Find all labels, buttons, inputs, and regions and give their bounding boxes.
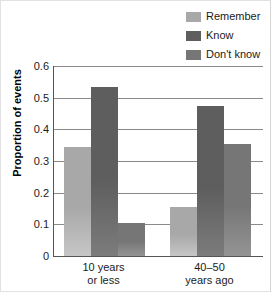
y-axis-tick-label: 0.1 [34,218,49,230]
bar [118,223,145,256]
bar-series-container [54,66,263,256]
legend-item-know: Know [186,28,270,43]
legend-swatch-remember [186,12,201,22]
y-axis-tick-label: 0 [43,250,49,262]
chart-legend: Remember Know Don't know [186,9,270,66]
bar-chart-figure: Remember Know Don't know Proportion of e… [0,0,272,293]
y-axis-tick-label: 0.6 [34,60,49,72]
legend-swatch-know [186,31,201,41]
legend-label-know: Know [206,30,234,41]
bar [197,106,224,256]
legend-item-remember: Remember [186,9,270,24]
legend-swatch-dont-know [186,50,201,60]
y-axis-tick-label: 0.5 [34,92,49,104]
legend-item-dont-know: Don't know [186,47,270,62]
y-axis-title: Proportion of events [11,53,23,193]
x-axis-tick-label-line: 40–50 [185,261,233,274]
x-axis-tick-labels: 10 yearsor less40–50years ago [53,261,262,291]
x-axis-tick-label-line: years ago [185,274,233,287]
bar [64,147,91,256]
legend-label-dont-know: Don't know [206,49,260,60]
plot-area: 00.10.20.30.40.50.6 [53,66,263,257]
bar [170,207,197,256]
y-axis-tick-label: 0.3 [34,155,49,167]
y-axis-tick-label: 0.4 [34,123,49,135]
x-axis-tick-label-line: or less [82,274,124,287]
x-axis-tick-label: 40–50years ago [185,261,233,287]
y-axis-tick-label: 0.2 [34,187,49,199]
bar [224,144,251,256]
legend-label-remember: Remember [206,11,260,22]
bar [91,87,118,256]
x-axis-tick-label: 10 yearsor less [82,261,124,287]
x-axis-tick-label-line: 10 years [82,261,124,274]
